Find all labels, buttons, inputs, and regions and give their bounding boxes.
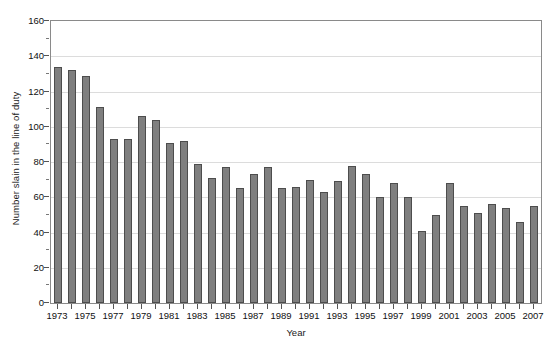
x-axis-tick-labels: 1973197519771979198119831985198719891991… [50,310,542,324]
y-tick-mark [44,232,49,233]
y-tick-label: 60 [33,191,44,202]
x-tick-mark [435,304,436,309]
x-tick-mark [281,304,282,309]
x-tick-label: 1979 [130,310,151,321]
x-tick-mark [351,304,352,309]
x-tick-mark [393,304,394,309]
bar [502,208,510,303]
x-tick-mark [127,304,128,309]
bar [348,166,356,303]
x-tick-label: 1981 [158,310,179,321]
x-tick-label: 1991 [298,310,319,321]
x-tick-mark [253,304,254,309]
bar [404,197,412,303]
x-tick-label: 1993 [326,310,347,321]
x-tick-label: 2001 [438,310,459,321]
bar [180,141,188,303]
bar [460,206,468,303]
x-tick-mark [421,304,422,309]
bar [68,70,76,303]
bar [138,116,146,303]
bar [250,174,258,303]
y-tick-mark [44,302,49,303]
y-tick-label: 100 [28,120,44,131]
bar [488,204,496,303]
y-minor-tick-mark [46,249,49,250]
x-tick-mark [183,304,184,309]
x-tick-mark [225,304,226,309]
bar [390,183,398,303]
bar [278,188,286,303]
bar-chart: Number slain in the line of duty 0204060… [0,0,556,353]
x-tick-mark [407,304,408,309]
bar [124,139,132,303]
x-axis-title: Year [50,327,542,338]
x-tick-label: 1985 [214,310,235,321]
y-axis-title-text: Number slain in the line of duty [10,92,21,226]
x-tick-label: 1973 [46,310,67,321]
x-tick-mark [463,304,464,309]
y-tick-mark [44,267,49,268]
x-tick-mark [141,304,142,309]
x-tick-mark [169,304,170,309]
x-tick-mark [197,304,198,309]
x-tick-mark [519,304,520,309]
y-tick-mark [44,91,49,92]
x-tick-mark [449,304,450,309]
bar [54,67,62,303]
x-tick-mark [505,304,506,309]
bar [110,139,118,303]
y-minor-tick-mark [46,108,49,109]
x-tick-mark [491,304,492,309]
x-tick-label: 2005 [494,310,515,321]
x-tick-label: 1997 [382,310,403,321]
y-minor-tick-mark [46,179,49,180]
y-tick-label: 160 [28,15,44,26]
x-tick-mark [85,304,86,309]
x-tick-mark [57,304,58,309]
y-minor-tick-mark [46,143,49,144]
x-tick-label: 1999 [410,310,431,321]
bar [292,187,300,303]
x-tick-mark [239,304,240,309]
x-tick-mark [295,304,296,309]
x-tick-mark [155,304,156,309]
bar [362,174,370,303]
x-tick-label: 2007 [522,310,543,321]
bar [236,188,244,303]
x-tick-mark [113,304,114,309]
x-tick-mark [99,304,100,309]
x-tick-label: 1977 [102,310,123,321]
x-tick-label: 1989 [270,310,291,321]
y-tick-label: 140 [28,50,44,61]
x-tick-mark [337,304,338,309]
bar [222,167,230,303]
x-tick-mark [71,304,72,309]
bar [152,120,160,303]
y-tick-label: 120 [28,85,44,96]
x-tick-mark [323,304,324,309]
y-axis-tick-labels: 020406080100120140160 [20,14,44,304]
bar [96,107,104,303]
x-tick-mark [365,304,366,309]
bar [320,192,328,303]
y-tick-mark [44,55,49,56]
y-tick-mark [44,20,49,21]
bar [446,183,454,303]
bar [208,178,216,303]
bar [474,213,482,303]
x-tick-label: 1995 [354,310,375,321]
y-minor-tick-mark [46,38,49,39]
y-tick-mark [44,161,49,162]
plot-area [50,20,542,304]
x-tick-label: 1983 [186,310,207,321]
x-tick-mark [309,304,310,309]
x-tick-mark [477,304,478,309]
y-tick-label: 40 [33,226,44,237]
bar [516,222,524,303]
bar [194,164,202,303]
y-tick-label: 20 [33,261,44,272]
x-tick-mark [211,304,212,309]
bar [530,206,538,303]
x-tick-label: 1975 [74,310,95,321]
